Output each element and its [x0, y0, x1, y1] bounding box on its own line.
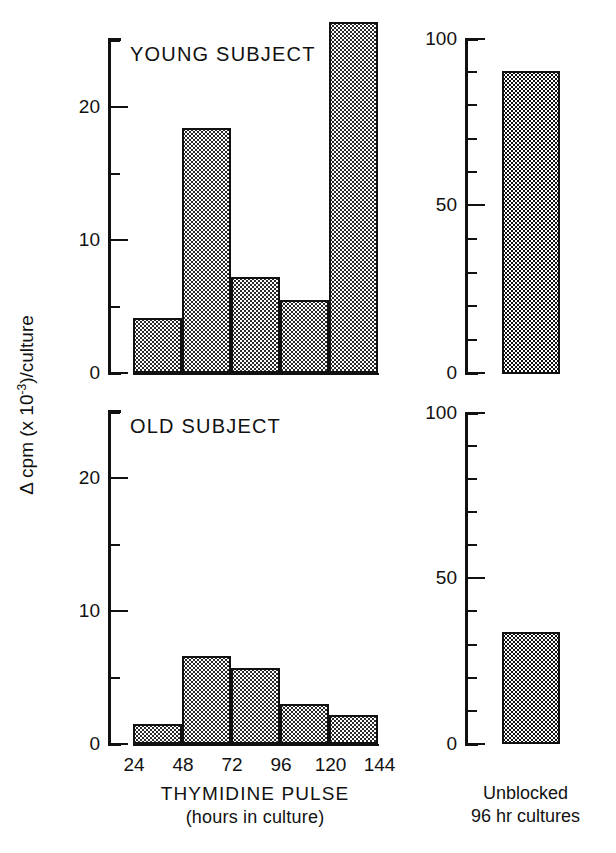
y-axis-spine-old	[108, 410, 111, 746]
y-tick-major-0-old-unblocked	[465, 743, 485, 745]
x-tick-label-24: 24	[113, 755, 155, 774]
y-tick-minor-5-old	[108, 677, 120, 679]
y-tick-major-20-old	[108, 477, 128, 479]
x-tick-label-120: 120	[307, 755, 354, 774]
y-tick-minor-20-old-unblocked	[465, 677, 477, 679]
panel-old-unblocked: 0 50 100	[400, 0, 616, 853]
y-tick-major-0-old	[108, 743, 128, 745]
side-caption: Unblocked 96 hr cultures	[438, 782, 613, 828]
panel-old-subject: OLD SUBJECT 0 10 20 24 48 72 96 120 144	[0, 0, 400, 853]
x-tick-label-72: 72	[211, 755, 253, 774]
y-tick-label-100-old-unblocked: 100	[404, 403, 457, 422]
x-axis-caption: THYMIDINE PULSE	[110, 782, 400, 806]
y-tick-minor-40-old-unblocked	[465, 610, 477, 612]
y-tick-minor-60-old-unblocked	[465, 544, 477, 546]
y-tick-major-50-old-unblocked	[465, 577, 485, 579]
y-tick-minor-30-old-unblocked	[465, 644, 477, 646]
bar-old-48-72	[182, 656, 231, 744]
bar-old-72-96	[231, 668, 280, 744]
side-caption-line2: 96 hr cultures	[438, 805, 613, 828]
y-tick-minor-80-old-unblocked	[465, 478, 477, 480]
y-tick-minor-10-old-unblocked	[465, 710, 477, 712]
bar-old-120-144	[329, 715, 378, 744]
y-tick-minor-90-old-unblocked	[465, 445, 477, 447]
y-tick-label-0-old-unblocked: 0	[412, 734, 457, 753]
x-axis-baseline-old	[133, 744, 379, 746]
x-tick-label-48: 48	[162, 755, 204, 774]
figure-root: · · · · · · · · Δ cpm (x 10-3)/culture Y…	[0, 0, 616, 853]
x-axis-subcaption: (hours in culture)	[110, 806, 400, 829]
x-tick-label-96: 96	[260, 755, 302, 774]
bar-old-96-120	[280, 704, 329, 744]
bar-old-unblocked	[502, 632, 560, 744]
y-tick-major-100-old-unblocked	[465, 412, 485, 414]
y-tick-minor-70-old-unblocked	[465, 511, 477, 513]
y-tick-label-20-old: 20	[55, 468, 100, 487]
bar-old-24-48	[133, 724, 182, 744]
panel-title-old: OLD SUBJECT	[130, 416, 281, 436]
y-tick-label-0-old: 0	[55, 734, 100, 753]
side-caption-line1: Unblocked	[438, 782, 613, 805]
x-tick-label-144: 144	[356, 755, 403, 774]
y-tick-minor-15-old	[108, 544, 120, 546]
y-tick-label-50-old-unblocked: 50	[412, 568, 457, 587]
y-tick-label-10-old: 10	[55, 601, 100, 620]
y-tick-minor-25-old	[108, 412, 120, 414]
y-axis-spine-old-unblocked	[465, 412, 468, 746]
y-tick-major-10-old	[108, 610, 128, 612]
